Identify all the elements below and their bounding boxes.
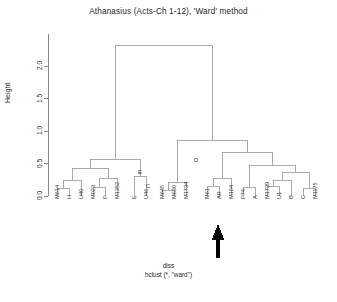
leaf-label: P74 xyxy=(240,189,246,199)
arrow-annotation xyxy=(212,224,225,258)
leaf-label: M1352 xyxy=(114,182,120,199)
node-label-e: E xyxy=(138,169,142,175)
leaf-label: M630 xyxy=(171,185,177,199)
leaf-label: M1734 xyxy=(183,182,189,199)
y-tick-0: 0.0 xyxy=(36,191,43,200)
node-label-d: D xyxy=(194,157,198,163)
leaf-label: M1175 xyxy=(312,182,318,199)
leaf-label: B xyxy=(288,195,294,199)
leaf-label: M645 xyxy=(159,185,165,199)
y-tick-3: 1.5 xyxy=(36,93,43,102)
leaf-label: AR xyxy=(216,191,222,199)
dendrogram-branches xyxy=(57,45,315,196)
leaf-label: U46 xyxy=(143,189,149,199)
leaf-label: C xyxy=(300,195,306,199)
leaf-label: M164 xyxy=(228,185,234,199)
dendrogram-plot xyxy=(0,0,337,302)
leaf-label: M614 xyxy=(54,185,60,199)
leaf-label: E xyxy=(131,195,137,199)
leaf-label: P xyxy=(102,195,108,199)
y-tick-1: 0.5 xyxy=(36,158,43,167)
y-tick-4: 2.0 xyxy=(36,61,43,70)
x-axis-caption: diss xyxy=(0,262,337,269)
leaf-label: M023 xyxy=(90,185,96,199)
y-tick-2: 1.0 xyxy=(36,126,43,135)
leaf-label: H xyxy=(66,195,72,199)
leaf-label: M61 xyxy=(204,188,210,199)
leaf-label: U40 xyxy=(78,189,84,199)
y-axis xyxy=(44,34,48,196)
leaf-label: M1739 xyxy=(264,182,270,199)
leaf-label: U1 xyxy=(276,192,282,199)
node-label-c: C xyxy=(146,183,150,189)
hclust-caption: hclust (*, "ward") xyxy=(0,271,337,278)
leaf-label: A xyxy=(252,195,258,199)
